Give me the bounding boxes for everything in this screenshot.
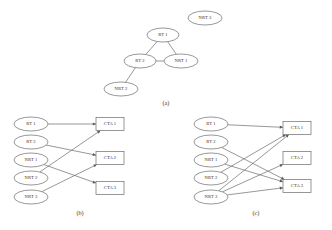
node-label-c_rt1: RT 1 bbox=[206, 121, 216, 126]
node-label-c_cta2: CTA 2 bbox=[291, 155, 304, 160]
node-label-nrt2: NRT 2 bbox=[115, 86, 128, 91]
node-label-c_cta1: CTA 1 bbox=[291, 125, 304, 130]
edge-b_nrt3-to-b_cta2 bbox=[42, 165, 97, 192]
node-label-c_nrt1: NRT 1 bbox=[205, 157, 218, 162]
arrowhead-c_rt1-to-c_cta1 bbox=[280, 126, 283, 129]
caption-cap_b: (b) bbox=[76, 209, 83, 217]
node-label-b_rt2: RT 2 bbox=[26, 139, 36, 144]
edge-rt1-to-nrt1 bbox=[168, 42, 177, 55]
node-label-b_nrt1: NRT 1 bbox=[25, 157, 38, 162]
node-label-c_nrt2: NRT 2 bbox=[205, 175, 218, 180]
node-label-rt2: RT 2 bbox=[135, 58, 145, 63]
node-label-c_cta3: CTA 3 bbox=[291, 183, 304, 188]
arrowhead-b_nrt2-to-b_cta1 bbox=[97, 131, 101, 134]
node-label-rt1: RT 1 bbox=[158, 32, 168, 37]
node-label-b_nrt3: NRT 3 bbox=[25, 194, 38, 199]
edge-c_nrt3-to-c_cta1 bbox=[219, 135, 289, 191]
node-label-b_cta1: CTA 1 bbox=[104, 121, 117, 126]
panel-c-node-group: RT 1RT 2NRT 1NRT 2NRT 3CTA 1CTA 2CTA 3 bbox=[194, 117, 311, 204]
caption-cap_c: (c) bbox=[253, 209, 260, 217]
node-label-b_rt1: RT 1 bbox=[26, 121, 36, 126]
node-label-b_cta3: CTA 3 bbox=[104, 185, 117, 190]
node-label-nrt1: NRT 1 bbox=[175, 58, 188, 63]
caption-cap_a: (a) bbox=[163, 99, 170, 107]
panel-b-node-group: RT 1RT 2NRT 1NRT 2NRT 3CTA 1CTA 2CTA 3 bbox=[14, 117, 124, 204]
edge-b_nrt1-to-b_cta3 bbox=[44, 165, 96, 183]
arrowhead-b_rt2-to-b_cta2 bbox=[93, 153, 96, 156]
arrowhead-b_rt1-to-b_cta1 bbox=[93, 122, 96, 125]
edge-c_rt1-to-c_cta1 bbox=[228, 125, 283, 128]
edge-c_nrt3-to-c_cta2 bbox=[222, 164, 283, 191]
edge-c_nrt2-to-c_cta1 bbox=[221, 135, 286, 173]
edge-rt1-to-rt2 bbox=[146, 42, 157, 55]
panel-b-edge-group bbox=[40, 122, 101, 191]
panel-c-edge-group bbox=[219, 125, 289, 195]
edge-b_rt2-to-b_cta2 bbox=[46, 145, 96, 155]
node-label-c_nrt3: NRT 3 bbox=[205, 194, 218, 199]
edge-c_nrt3-to-c_cta3 bbox=[227, 188, 283, 195]
edge-rt2-to-nrt2 bbox=[126, 68, 136, 83]
edge-b_nrt2-to-b_cta1 bbox=[40, 131, 101, 173]
node-label-c_rt2: RT 2 bbox=[206, 139, 216, 144]
node-label-nrt3: NRT 3 bbox=[199, 15, 212, 20]
figure-canvas: RT 1RT 2NRT 1NRT 2NRT 3 RT 1RT 2NRT 1NRT… bbox=[0, 0, 332, 230]
panel-a-node-group: RT 1RT 2NRT 1NRT 2NRT 3 bbox=[104, 11, 222, 96]
node-label-b_nrt2: NRT 2 bbox=[25, 175, 38, 180]
node-label-b_cta2: CTA 2 bbox=[104, 155, 117, 160]
